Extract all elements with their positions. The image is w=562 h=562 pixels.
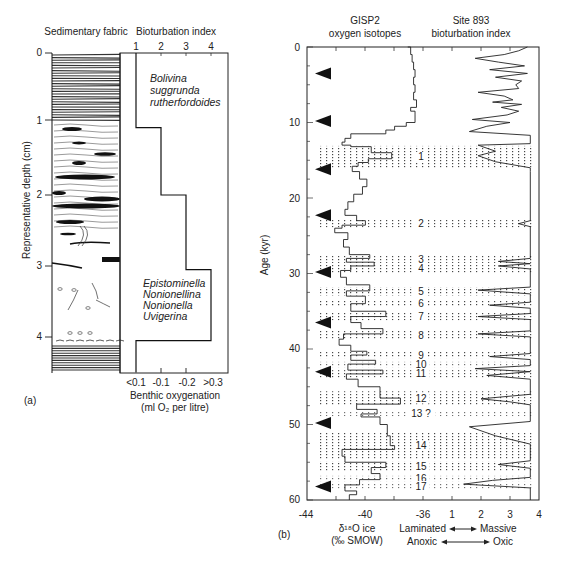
arrow-right-icon <box>484 540 490 545</box>
age-axis-label: Age (kyr) <box>259 235 270 276</box>
gisp2-subheader: oxygen isotopes <box>329 28 401 39</box>
depth-ticks: 0 1 2 3 4 <box>36 47 52 342</box>
tick-label: 1 <box>449 509 455 520</box>
event-label: 4 <box>418 263 424 274</box>
tick-label: 4 <box>208 41 214 52</box>
species-annotation-lower: Epistominella Nonionellina Nonionella Uv… <box>143 277 206 322</box>
event-label: 14 <box>415 440 427 451</box>
heinrich-arrow-icon <box>315 115 331 127</box>
tick-label: -0.1 <box>152 377 170 388</box>
sedimentary-fabric-header: Sedimentary fabric <box>44 26 127 37</box>
bioturbation-index-header: Bioturbation index <box>136 26 216 37</box>
figure-canvas: Sedimentary fabric Bioturbation index 1 … <box>0 0 562 562</box>
heinrich-event-arrows <box>315 67 331 492</box>
arrow-left-icon <box>441 540 447 545</box>
arrow-left-icon <box>449 527 455 532</box>
tick-label: 0 <box>294 42 300 53</box>
gisp2-header: GISP2 <box>350 15 380 26</box>
tick-label: 20 <box>289 193 301 204</box>
panel-b: GISP2 oxygen isotopes Site 893 bioturbat… <box>259 15 542 547</box>
event-label: 11 <box>416 368 427 379</box>
heinrich-arrow-icon <box>315 67 331 79</box>
tick-label: 2 <box>158 41 164 52</box>
tick-label: 50 <box>289 419 301 430</box>
oxygenation-ticks: <0.1 -0.1 -0.2 >0.3 <box>126 368 223 388</box>
tick-label: 2 <box>478 509 484 520</box>
age-ticks: 0 10 20 30 40 50 60 <box>289 42 301 505</box>
event-label: 5 <box>418 286 424 297</box>
species-annotation-upper: Bolivina suggrunda rutherfordoides <box>150 72 221 108</box>
species-label: suggrunda <box>150 84 200 96</box>
tick-label: 3 <box>36 260 42 271</box>
event-label: 8 <box>418 330 424 341</box>
panel-label-a: (a) <box>24 395 36 406</box>
tick-label: 10 <box>289 117 301 128</box>
tick-label: 30 <box>289 268 301 279</box>
tick-label: 60 <box>289 494 301 505</box>
heinrich-arrow-icon <box>315 480 331 492</box>
massive-label: Massive <box>480 523 517 534</box>
species-label: Uvigerina <box>143 310 188 322</box>
tick-label: -0.2 <box>178 377 196 388</box>
bioturbation-axis-legend: Laminated Massive Anoxic Oxic <box>399 523 517 547</box>
event-label: 2 <box>418 218 424 229</box>
tick-label: 4 <box>36 331 42 342</box>
bioturbation-top-ticks: 1 2 3 4 <box>133 41 214 56</box>
tick-label: 0 <box>36 47 42 58</box>
sedimentary-fabric-column <box>52 54 124 370</box>
tick-label: -36 <box>416 509 431 520</box>
species-label: Bolivina <box>150 72 187 84</box>
event-label: 17 <box>415 481 427 492</box>
site893-header: Site 893 <box>453 15 490 26</box>
panel-label-b: (b) <box>278 529 290 540</box>
site893-subheader: bioturbation index <box>432 28 511 39</box>
species-label: rutherfordoides <box>150 96 221 108</box>
isotope-axis-unit: (‰ SMOW) <box>331 535 383 546</box>
event-label: 7 <box>418 311 424 322</box>
tick-label: 4 <box>536 509 542 520</box>
tick-label: 1 <box>36 115 42 126</box>
event-label: 12 <box>415 393 427 404</box>
oxic-label: Oxic <box>493 536 513 547</box>
tick-label: -44 <box>299 509 314 520</box>
heinrich-arrow-icon <box>315 417 331 429</box>
tick-label: >0.3 <box>203 377 223 388</box>
event-label: 6 <box>418 298 424 309</box>
laminated-label: Laminated <box>399 523 446 534</box>
isotope-axis-label: δ¹⁸O ice <box>339 523 376 534</box>
event-label: 15 <box>415 461 427 472</box>
tick-label: 1 <box>133 41 139 52</box>
tick-label: 2 <box>36 189 42 200</box>
x-ticks-b: -44 -40 -36 1 2 3 4 <box>299 509 542 520</box>
panel-a: Sedimentary fabric Bioturbation index 1 … <box>21 26 228 413</box>
tick-label: 40 <box>289 343 301 354</box>
anoxic-label: Anoxic <box>407 536 437 547</box>
event-label: 1 <box>418 151 424 162</box>
depth-axis-label: Representative depth (cm) <box>21 141 32 259</box>
tick-label: <0.1 <box>126 377 146 388</box>
tick-label: -40 <box>358 509 373 520</box>
event-label: 13 ? <box>411 408 431 419</box>
oxygenation-axis-unit: (ml O₂ per litre) <box>141 402 209 413</box>
tick-label: 3 <box>507 509 513 520</box>
arrow-right-icon <box>471 527 477 532</box>
oxygenation-axis-label: Benthic oxygenation <box>130 390 220 401</box>
tick-label: 3 <box>183 41 189 52</box>
